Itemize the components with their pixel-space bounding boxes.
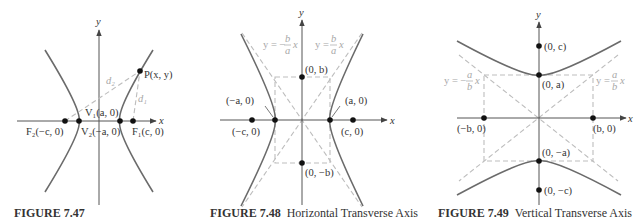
leader-a (332, 106, 340, 117)
caption-number: FIGURE 7.49 (438, 206, 509, 220)
focus-left (249, 117, 255, 123)
figures-canvas: x y P(x, y) d₂ d₁ V₁(a, 0) F₂(−c, 0) V₂(… (0, 0, 634, 224)
leader-neg-a (265, 106, 273, 117)
label-p: P(x, y) (144, 69, 173, 81)
y-axis-label: y (298, 7, 304, 18)
asym-left-num: a (467, 69, 472, 80)
asym-left-den: a (285, 45, 290, 56)
label-0-neg-b: (0, −b) (305, 167, 334, 179)
label-c-0: (c, 0) (341, 126, 364, 138)
label-neg-c-0: (−c, 0) (232, 126, 261, 138)
label-neg-a-0: (−a, 0) (226, 95, 255, 107)
vertex-left (272, 117, 278, 123)
asymptote-left-label: y = − (444, 75, 466, 86)
asym-left-den: b (467, 81, 472, 92)
label-f1: F₁(c, 0) (132, 126, 164, 138)
focus-bottom (536, 187, 542, 193)
y-axis-label: y (95, 16, 101, 27)
point-0-neg-b (299, 160, 305, 166)
x-axis-label: x (627, 113, 633, 124)
asymptote-right-label: y = (315, 39, 329, 50)
point-b-0 (590, 115, 596, 121)
caption-text: Horizontal Transverse Axis (287, 206, 418, 220)
caption-fig-7-49: FIGURE 7.49Vertical Transverse Axis (438, 206, 632, 221)
label-d1: d₁ (138, 93, 147, 104)
vertex-v1 (117, 118, 123, 124)
label-b-0: (b, 0) (593, 123, 616, 135)
vertex-top (536, 72, 542, 78)
label-0-b: (0, b) (305, 64, 328, 76)
focus-right (350, 117, 356, 123)
vertex-v2 (76, 118, 82, 124)
x-axis-label: x (389, 115, 395, 126)
figure-7-47: x y P(x, y) d₂ d₁ V₁(a, 0) F₂(−c, 0) V₂(… (17, 16, 173, 205)
asym-left-var: x (474, 75, 480, 86)
vertex-right (327, 117, 333, 123)
asym-right-var: x (338, 39, 344, 50)
y-axis-label: y (535, 9, 541, 20)
label-d2: d₂ (106, 75, 115, 86)
focus-top (536, 43, 542, 49)
asym-right-var: x (619, 75, 625, 86)
point-neg-b-0 (481, 115, 487, 121)
figure-7-49: x y y = − a b x y = a b x (0, c) (0, a) … (444, 9, 633, 205)
point-0-b (299, 74, 305, 80)
label-0-neg-a: (0, −a) (542, 147, 571, 159)
asym-right-den: a (331, 45, 336, 56)
label-v2: V₂(−a, 0) (81, 126, 121, 138)
caption-number: FIGURE 7.47 (14, 206, 85, 220)
caption-number: FIGURE 7.48 (210, 206, 281, 220)
caption-text: Vertical Transverse Axis (515, 206, 632, 220)
focus-f2 (62, 118, 68, 124)
label-neg-b-0: (−b, 0) (457, 123, 486, 135)
asym-right-num: a (612, 69, 617, 80)
label-f2: F₂(−c, 0) (26, 126, 64, 138)
asym-left-var: x (292, 39, 298, 50)
asym-left-num: b (285, 33, 290, 44)
label-0-neg-c: (0, −c) (544, 185, 573, 197)
asymptote-right-label: y = (596, 75, 610, 86)
vertex-bottom (536, 158, 542, 164)
asym-right-num: b (331, 33, 336, 44)
figure-7-48: x y y = − b a x y = b a x (0, b) (0, −b)… (220, 7, 395, 207)
caption-fig-7-47: FIGURE 7.47 (14, 206, 91, 221)
caption-fig-7-48: FIGURE 7.48Horizontal Transverse Axis (210, 206, 418, 221)
label-0-c: (0, c) (544, 41, 567, 53)
asym-right-den: b (612, 81, 617, 92)
label-0-a: (0, a) (542, 79, 565, 91)
point-p (137, 68, 143, 74)
asymptote-left-label: y = − (263, 39, 285, 50)
label-v1: V₁(a, 0) (85, 107, 119, 119)
label-a-0: (a, 0) (345, 95, 368, 107)
focus-f1 (130, 118, 136, 124)
x-axis-label: x (158, 115, 164, 126)
